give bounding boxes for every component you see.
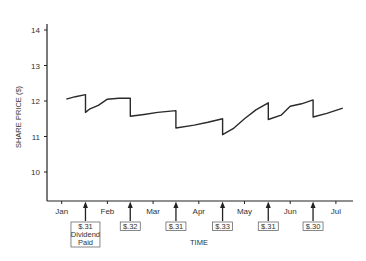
y-tick-label: 11 bbox=[32, 133, 41, 142]
dividend-label: $.32 bbox=[123, 222, 138, 231]
dividend-marker: $.31 bbox=[166, 202, 186, 232]
share-price-chart: 1011121314 JanFebMarAprMayJunJul SHARE P… bbox=[0, 0, 366, 261]
dividend-label: $.31 bbox=[169, 222, 184, 231]
dividend-marker: $.31DividendPaid bbox=[71, 202, 100, 248]
dividend-label: $.31 bbox=[261, 222, 276, 231]
y-axis-title: SHARE PRICE ($) bbox=[14, 85, 23, 148]
dividend-marker: $.32 bbox=[120, 202, 140, 232]
x-tick-label: Jul bbox=[331, 207, 341, 216]
y-tick-label: 10 bbox=[31, 168, 40, 177]
y-axis: 1011121314 bbox=[31, 24, 47, 201]
x-axis-title: TIME bbox=[190, 238, 208, 247]
x-tick-label: May bbox=[237, 207, 252, 216]
x-tick-label: Jun bbox=[284, 207, 297, 216]
y-tick-label: 13 bbox=[31, 62, 40, 71]
y-tick-label: 12 bbox=[31, 97, 40, 106]
dividend-marker: $.31 bbox=[258, 202, 278, 232]
dividend-marker: $.30 bbox=[303, 202, 323, 232]
x-tick-label: Jan bbox=[55, 207, 68, 216]
dividend-marker: $.33 bbox=[213, 202, 233, 232]
dividend-label: $.30 bbox=[306, 222, 321, 231]
dividend-label: Paid bbox=[78, 238, 93, 247]
x-tick-label: Feb bbox=[101, 207, 115, 216]
x-tick-label: Mar bbox=[146, 207, 160, 216]
dividend-label: $.33 bbox=[215, 222, 230, 231]
price-line bbox=[66, 95, 343, 135]
x-axis: JanFebMarAprMayJunJul bbox=[47, 201, 353, 216]
x-tick-label: Apr bbox=[193, 207, 206, 216]
y-tick-label: 14 bbox=[31, 26, 40, 35]
